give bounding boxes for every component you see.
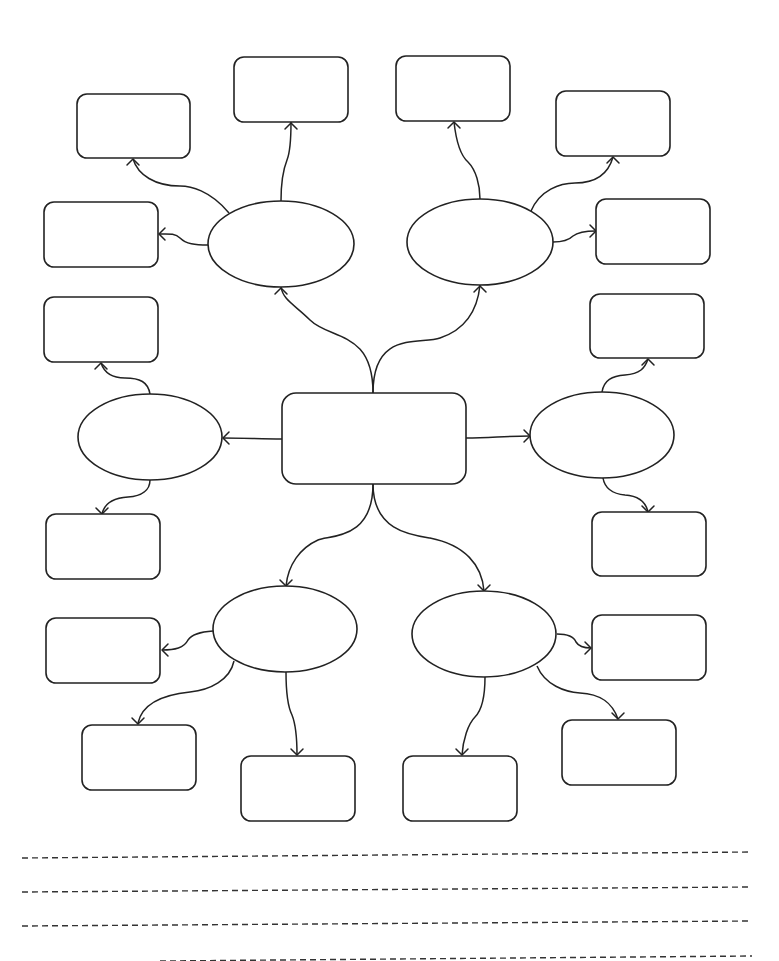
connector-arrow xyxy=(275,287,373,393)
mind-map-canvas xyxy=(0,0,779,961)
central-topic xyxy=(282,393,466,484)
box-5[interactable] xyxy=(556,91,670,156)
arrowhead-icon xyxy=(642,359,654,365)
connector-arrow xyxy=(557,634,591,654)
box-12[interactable] xyxy=(82,725,196,790)
arrowhead-icon xyxy=(642,506,654,512)
connector-arrow xyxy=(373,484,490,591)
box-8[interactable] xyxy=(46,514,160,579)
connector-arrow xyxy=(162,631,213,656)
connector-arrow xyxy=(223,432,282,444)
arrowhead-icon xyxy=(127,159,139,165)
box-10[interactable] xyxy=(592,512,706,576)
arrowhead-icon xyxy=(96,508,108,514)
oval-top-left[interactable] xyxy=(208,201,354,287)
dashed-writing-line[interactable] xyxy=(22,887,752,892)
box-6[interactable] xyxy=(596,199,710,264)
connector-arrow xyxy=(602,359,654,392)
connector-line xyxy=(286,672,297,755)
connector-line xyxy=(466,436,530,438)
connector-arrow xyxy=(553,225,596,242)
connector-line xyxy=(162,631,213,650)
connector-line xyxy=(373,285,480,393)
connector-line xyxy=(603,478,648,512)
connector-arrow xyxy=(456,677,485,755)
connector-line xyxy=(454,122,480,199)
connector-arrow xyxy=(466,430,530,442)
connector-line xyxy=(159,234,208,245)
connector-arrow xyxy=(603,478,654,512)
connector-line xyxy=(557,634,591,648)
oval-bottom-left[interactable] xyxy=(213,586,357,672)
connector-line xyxy=(286,484,373,586)
box-4[interactable] xyxy=(396,56,510,121)
arrowhead-icon xyxy=(95,363,107,369)
box-16[interactable] xyxy=(403,756,517,821)
connector-line xyxy=(281,287,373,393)
connector-line xyxy=(373,484,484,591)
box-11[interactable] xyxy=(46,618,160,683)
arrowhead-icon xyxy=(612,713,624,719)
connector-arrow xyxy=(95,363,150,394)
connector-line xyxy=(281,122,291,201)
central-topic-box[interactable] xyxy=(282,393,466,484)
box-9[interactable] xyxy=(590,294,704,358)
connector-line xyxy=(102,480,150,514)
box-13[interactable] xyxy=(241,756,355,821)
connector-line xyxy=(101,363,150,394)
box-3[interactable] xyxy=(44,202,158,267)
connector-arrow xyxy=(373,285,486,393)
connector-arrow xyxy=(96,480,150,514)
writing-lines xyxy=(22,852,752,961)
dashed-writing-line[interactable] xyxy=(22,852,752,858)
oval-mid-right[interactable] xyxy=(530,392,674,478)
connector-arrow xyxy=(281,122,297,201)
box-15[interactable] xyxy=(562,720,676,785)
arrowhead-icon xyxy=(275,288,287,294)
oval-mid-left[interactable] xyxy=(78,394,222,480)
box-2[interactable] xyxy=(234,57,348,122)
connector-arrow xyxy=(159,228,208,245)
connector-line xyxy=(462,677,485,755)
arrowhead-icon xyxy=(607,157,619,163)
box-1[interactable] xyxy=(77,94,190,158)
oval-top-right[interactable] xyxy=(407,199,553,285)
connector-line xyxy=(602,359,648,392)
connector-line xyxy=(223,438,282,439)
box-7[interactable] xyxy=(44,297,158,362)
dashed-writing-line[interactable] xyxy=(160,956,752,961)
oval-bottom-right[interactable] xyxy=(412,591,556,677)
connector-arrow xyxy=(286,672,303,755)
dashed-writing-line[interactable] xyxy=(22,921,752,926)
box-14[interactable] xyxy=(592,615,706,680)
connector-arrow xyxy=(448,122,480,199)
connector-arrow xyxy=(280,484,373,586)
